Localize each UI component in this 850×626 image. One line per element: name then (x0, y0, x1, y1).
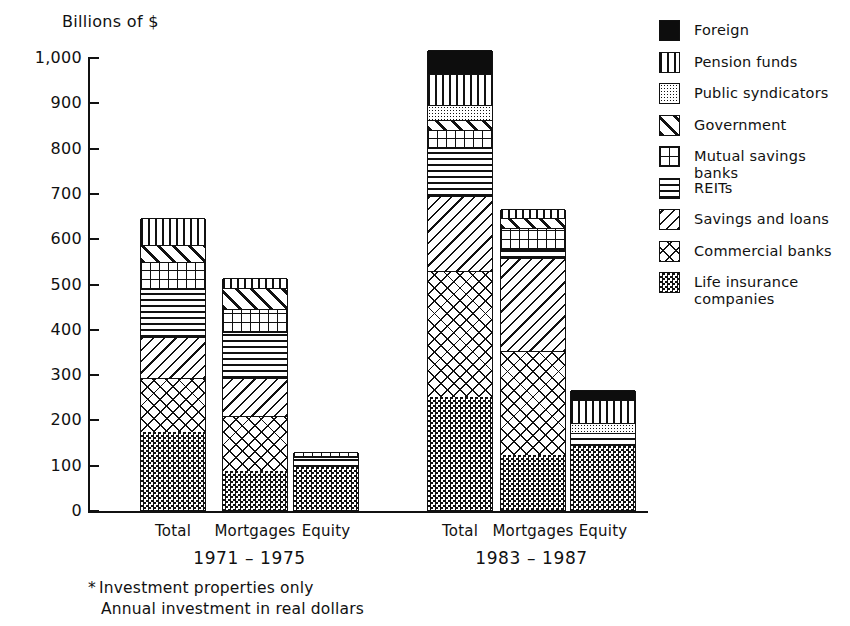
bar-segment-government (501, 218, 565, 228)
bar-segment-life (141, 432, 205, 510)
x-axis-group-label: 1983 – 1987 (422, 548, 642, 568)
legend-swatch-public-icon (659, 83, 680, 104)
bar-segment-government (141, 245, 205, 263)
bar-segment-reits (294, 457, 358, 466)
bar-segment-reits (428, 148, 492, 196)
legend-swatch-savings-icon (659, 209, 680, 230)
bar-segment-pension (223, 278, 287, 288)
legend-swatch-reits-icon (659, 178, 680, 199)
legend: ForeignPension fundsPublic syndicatorsGo… (659, 20, 849, 304)
footnote-line-1: Investment properties only (99, 579, 314, 597)
bar-segment-public (571, 423, 635, 432)
bar-segment-life (571, 446, 635, 510)
bar-segment-pension (571, 400, 635, 424)
x-axis-group-label: 1971 – 1975 (140, 548, 360, 568)
x-axis-label: Equity (550, 522, 656, 540)
legend-label: REITs (694, 178, 733, 197)
bar-segment-reits (571, 433, 635, 446)
legend-label: Public syndicators (694, 83, 829, 102)
footnote-marker: * (88, 579, 96, 597)
stacked-bar (500, 210, 566, 511)
bar-segment-government (223, 288, 287, 310)
bar-segment-public (428, 105, 492, 121)
footnote: *Investment properties only Annual inves… (88, 578, 364, 620)
legend-swatch-pension-icon (659, 52, 680, 73)
bar-segment-reits (141, 289, 205, 337)
legend-label: Government (694, 115, 786, 134)
bar-segment-commercial (428, 271, 492, 397)
x-axis-label: Equity (273, 522, 379, 540)
bar-segment-government (428, 120, 492, 130)
legend-label: Pension funds (694, 52, 797, 71)
legend-item[interactable]: Pension funds (659, 52, 849, 73)
bar-segment-pension (141, 218, 205, 245)
bar-segment-pension (501, 209, 565, 218)
stacked-bar (570, 391, 636, 511)
legend-item[interactable]: Mutual savings banks (659, 146, 849, 167)
legend-label: Commercial banks (694, 241, 832, 260)
legend-swatch-life-icon (659, 272, 680, 293)
bar-segment-commercial (501, 351, 565, 454)
bar-segment-mutual (141, 262, 205, 289)
bar-segment-life (223, 471, 287, 510)
chart-root: Billions of $ 1,000900800700600500400300… (0, 0, 850, 626)
bar-segment-commercial (141, 378, 205, 431)
legend-swatch-mutual-icon (659, 146, 680, 167)
bar-segment-mutual (428, 130, 492, 148)
stacked-bar (140, 219, 206, 511)
legend-swatch-government-icon (659, 115, 680, 136)
legend-swatch-commercial-icon (659, 241, 680, 262)
legend-item[interactable]: Public syndicators (659, 83, 849, 104)
bar-segment-commercial (223, 416, 287, 471)
bar-segment-mutual (501, 228, 565, 249)
legend-item[interactable]: Savings and loans (659, 209, 849, 230)
bar-segment-savings (223, 378, 287, 416)
bar-segment-pension (428, 74, 492, 104)
bar-segment-savings (141, 337, 205, 378)
bar-segment-mutual (294, 452, 358, 457)
bar-segment-life (501, 455, 565, 510)
legend-label: Life insurance companies (694, 272, 798, 308)
bar-segment-foreign (428, 50, 492, 74)
legend-item[interactable]: Life insurance companies (659, 272, 849, 293)
legend-item[interactable]: Foreign (659, 20, 849, 41)
bar-segment-life (294, 467, 358, 510)
bar-segment-reits (223, 332, 287, 378)
stacked-bar (427, 51, 493, 511)
legend-item[interactable]: Commercial banks (659, 241, 849, 262)
stacked-bar (222, 279, 288, 511)
legend-swatch-foreign-icon (659, 20, 680, 41)
bar-segment-mutual (223, 309, 287, 332)
footnote-line-2: Annual investment in real dollars (101, 599, 364, 620)
bar-segment-reits (501, 249, 565, 258)
bar-segment-foreign (571, 390, 635, 400)
legend-item[interactable]: Government (659, 115, 849, 136)
bar-segment-life (428, 397, 492, 510)
legend-label: Foreign (694, 20, 749, 39)
stacked-bar (293, 453, 359, 511)
legend-label: Savings and loans (694, 209, 829, 228)
bar-segment-savings (501, 258, 565, 352)
bar-segment-savings (428, 196, 492, 271)
